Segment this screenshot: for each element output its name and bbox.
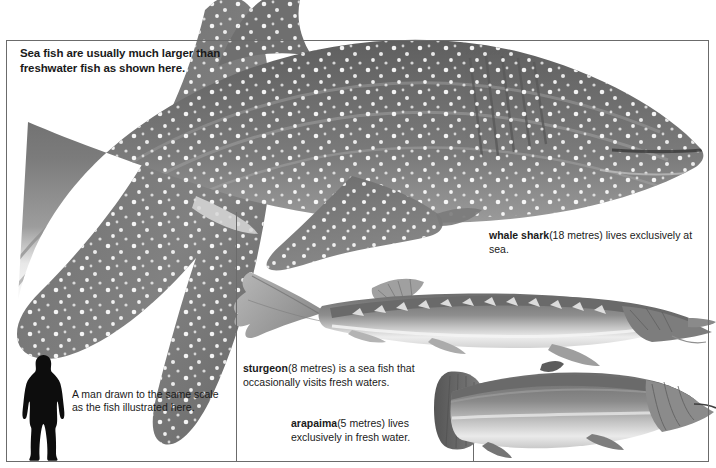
- caption-sturgeon-size: (8 metres): [288, 362, 336, 374]
- headline-text: Sea fish are usually much larger than fr…: [20, 46, 225, 76]
- caption-sturgeon: sturgeon(8 metres) is a sea fish that oc…: [243, 349, 428, 389]
- arapaima-divider-vertical: [473, 444, 474, 462]
- panel-divider-vertical: [236, 212, 237, 462]
- caption-sturgeon-name: sturgeon: [243, 362, 288, 374]
- arapaima-illustration: [434, 361, 716, 458]
- caption-whale-shark-name: whale shark: [489, 229, 549, 241]
- caption-man: A man drawn to the same scale as the fis…: [72, 388, 232, 415]
- caption-whale-shark: whale shark(18 metres) lives exclusively…: [489, 216, 704, 256]
- fish-scale-comparison-figure: Sea fish are usually much larger than fr…: [0, 0, 716, 468]
- caption-arapaima: arapaima(5 metres) lives exclusively in …: [291, 404, 441, 444]
- man-silhouette-illustration: [22, 355, 64, 461]
- caption-arapaima-name: arapaima: [291, 417, 337, 429]
- caption-arapaima-size: (5 metres): [337, 417, 385, 429]
- caption-whale-shark-size: (18 metres): [549, 229, 603, 241]
